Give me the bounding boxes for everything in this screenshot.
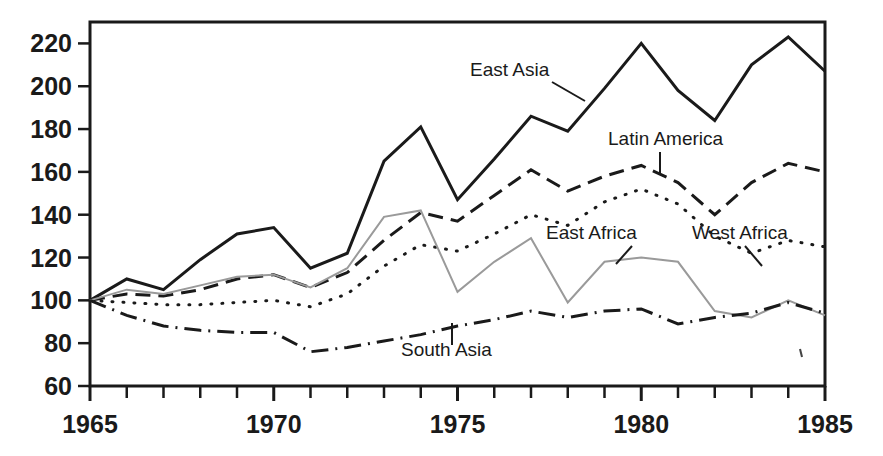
x-axis-tick-label: 1980	[613, 410, 669, 438]
leader-line-east-asia	[552, 82, 585, 101]
leader-line-east-africa	[616, 246, 632, 264]
y-axis-tick-label: 200	[30, 72, 72, 100]
series-line-west-africa	[90, 189, 825, 307]
y-axis-tick-label: 60	[44, 372, 72, 400]
y-axis-tick-label: 100	[30, 286, 72, 314]
y-axis-tick-label: 120	[30, 244, 72, 272]
y-axis-tick-label: 80	[44, 329, 72, 357]
y-axis-tick-label: 180	[30, 115, 72, 143]
print-artifact-mark	[800, 349, 802, 357]
x-axis-tick-label: 1965	[62, 410, 118, 438]
y-axis-tick-label: 140	[30, 201, 72, 229]
series-label-east-africa: East Africa	[546, 222, 637, 243]
y-axis-tick-label: 220	[30, 29, 72, 57]
series-label-latin-america: Latin America	[608, 128, 724, 149]
series-label-west-africa: West Africa	[692, 222, 788, 243]
line-chart: 6080100120140160180200220196519701975198…	[0, 0, 883, 456]
x-axis-tick-label: 1985	[797, 410, 853, 438]
series-label-east-asia: East Asia	[470, 59, 550, 80]
chart-page: 6080100120140160180200220196519701975198…	[0, 0, 883, 456]
x-axis-tick-label: 1975	[430, 410, 486, 438]
series-label-south-asia: South Asia	[401, 339, 492, 360]
y-axis-tick-label: 160	[30, 158, 72, 186]
x-axis-tick-label: 1970	[246, 410, 302, 438]
series-line-east-asia	[90, 37, 825, 300]
